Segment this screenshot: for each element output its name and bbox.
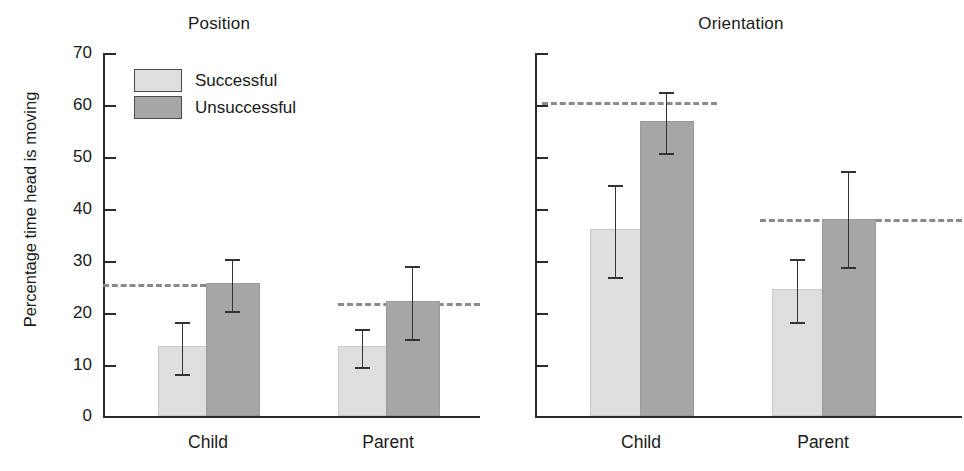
legend: Successful Unsuccessful xyxy=(134,68,296,122)
errorbar-cap-bottom xyxy=(175,374,190,376)
y-tick-50 xyxy=(105,157,116,159)
legend-label-successful: Successful xyxy=(195,71,277,91)
y-tick-50 xyxy=(537,157,548,159)
plot-area-position: Percentage time head is moving 70 60 50 … xyxy=(0,0,482,471)
y-tick-30 xyxy=(105,261,116,263)
y-tick-label-70: 70 xyxy=(50,43,92,63)
errorbar-cap-top xyxy=(841,171,856,173)
y-tick-70 xyxy=(105,53,116,55)
y-tick-60 xyxy=(537,105,548,107)
errorbar-cap-bottom xyxy=(355,367,370,369)
y-tick-20 xyxy=(537,313,548,315)
y-tick-20 xyxy=(105,313,116,315)
legend-swatch-successful-icon xyxy=(134,69,182,92)
errorbar-child-unsuccessful xyxy=(232,259,233,313)
errorbar-cap-bottom xyxy=(225,311,240,313)
y-tick-label-60: 60 xyxy=(50,95,92,115)
errorbar-cap-top xyxy=(790,259,805,261)
y-tick-70 xyxy=(537,53,548,55)
x-axis-line xyxy=(103,416,480,418)
y-axis-line xyxy=(103,53,105,417)
y-tick-30 xyxy=(537,261,548,263)
errorbar-child-successful xyxy=(615,185,616,279)
errorbar-cap-bottom xyxy=(405,339,420,341)
errorbar-cap-top xyxy=(225,259,240,261)
y-tick-label-40: 40 xyxy=(50,199,92,219)
bar-child-successful xyxy=(158,346,208,416)
errorbar-parent-successful xyxy=(362,329,363,369)
legend-item-successful: Successful xyxy=(134,68,296,93)
errorbar-cap-bottom xyxy=(608,277,623,279)
y-tick-60 xyxy=(105,105,116,107)
x-tick-label-child: Child xyxy=(590,432,692,453)
bar-parent-unsuccessful xyxy=(386,301,440,416)
y-axis-label: Percentage time head is moving xyxy=(21,40,40,380)
bar-parent-unsuccessful xyxy=(822,219,876,416)
errorbar-cap-top xyxy=(608,185,623,187)
x-axis-line xyxy=(535,416,962,418)
bar-child-unsuccessful xyxy=(206,283,260,416)
panel-orientation: Orientation xyxy=(482,0,964,471)
figure-bar-chart-head-movement: Position Percentage time head is moving … xyxy=(0,0,964,471)
errorbar-parent-successful xyxy=(797,259,798,324)
errorbar-cap-bottom xyxy=(841,267,856,269)
errorbar-cap-top xyxy=(405,266,420,268)
bar-child-unsuccessful xyxy=(640,121,694,416)
errorbar-child-successful xyxy=(182,322,183,376)
y-axis-line xyxy=(535,53,537,417)
y-tick-10 xyxy=(105,365,116,367)
errorbar-cap-top xyxy=(659,92,674,94)
legend-label-unsuccessful: Unsuccessful xyxy=(195,98,296,118)
bar-parent-successful xyxy=(338,346,388,416)
x-tick-label-parent: Parent xyxy=(338,432,438,453)
x-tick-label-parent: Parent xyxy=(772,432,874,453)
legend-item-unsuccessful: Unsuccessful xyxy=(134,95,296,120)
errorbar-cap-bottom xyxy=(790,322,805,324)
bar-parent-successful xyxy=(772,289,824,416)
y-tick-label-50: 50 xyxy=(50,147,92,167)
errorbar-parent-unsuccessful xyxy=(848,171,849,269)
plot-area-orientation: Child Parent xyxy=(482,0,964,471)
errorbar-cap-bottom xyxy=(659,153,674,155)
panel-position: Position Percentage time head is moving … xyxy=(0,0,482,471)
y-tick-label-20: 20 xyxy=(50,303,92,323)
reference-line-child xyxy=(542,102,717,105)
errorbar-child-unsuccessful xyxy=(666,92,667,155)
y-tick-40 xyxy=(105,209,116,211)
y-tick-40 xyxy=(537,209,548,211)
errorbar-cap-top xyxy=(175,322,190,324)
y-tick-label-0: 0 xyxy=(50,406,92,426)
errorbar-parent-unsuccessful xyxy=(412,266,413,341)
legend-swatch-unsuccessful-icon xyxy=(134,96,182,119)
y-tick-label-30: 30 xyxy=(50,251,92,271)
y-tick-label-10: 10 xyxy=(50,355,92,375)
y-tick-10 xyxy=(537,365,548,367)
bar-child-successful xyxy=(590,229,642,416)
errorbar-cap-top xyxy=(355,329,370,331)
x-tick-label-child: Child xyxy=(158,432,258,453)
